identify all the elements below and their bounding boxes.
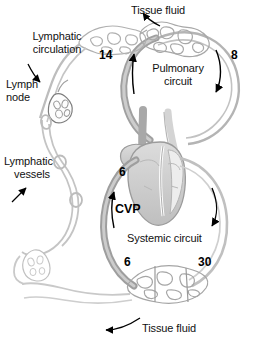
lymphatic-vessels-label-line1: Lymphatic bbox=[4, 155, 53, 167]
tissue-fluid-bottom-arrow bbox=[106, 318, 140, 330]
lymph-collector-bottom bbox=[14, 256, 24, 284]
tissue-fluid-top-label: Tissue fluid bbox=[131, 4, 185, 16]
lymphatic-circulation-label-line2: circulation bbox=[14, 43, 100, 55]
pulmonary-up-arrow bbox=[133, 54, 135, 94]
lymphatic-vessel-chain bbox=[22, 114, 82, 255]
tissue-fluid-outflow-2 bbox=[24, 297, 132, 303]
pulmonary-circuit-label-line1: Pulmonary bbox=[140, 62, 216, 74]
cvp-label: CVP bbox=[115, 203, 141, 216]
pulmonary-capillary-bed bbox=[140, 22, 209, 57]
pressure-value-pulmonary-outflow: 8 bbox=[231, 49, 238, 61]
systemic-up-arrow bbox=[112, 192, 114, 228]
tissue-fluid-bottom-label: Tissue fluid bbox=[142, 322, 196, 334]
pressure-value-systemic-arterial: 30 bbox=[198, 256, 211, 268]
lymph-node-label-line2: node bbox=[6, 91, 30, 103]
lymph-node-label-line1: Lymph bbox=[6, 78, 38, 90]
lymph-node-shape bbox=[48, 80, 72, 123]
lymphatic-circulation-label-line1: Lymphatic bbox=[14, 30, 100, 42]
tissue-fluid-outflow bbox=[22, 283, 130, 295]
lymphatic-vessels-label-line2: vessels bbox=[14, 168, 50, 180]
lower-lymph-node bbox=[23, 250, 50, 281]
pulmonary-circuit-label-line2: circuit bbox=[140, 75, 216, 87]
pressure-value-systemic-venous: 6 bbox=[124, 256, 131, 268]
systemic-circuit-label: Systemic circuit bbox=[127, 232, 202, 244]
pressure-value-pulmonary-inflow: 14 bbox=[99, 49, 112, 61]
pressure-value-right-atrium: 6 bbox=[119, 166, 126, 178]
lymphatic-vessels-arrow bbox=[12, 188, 26, 202]
figure-canvas: Tissue fluid Lymphatic circulation Lymph… bbox=[0, 0, 255, 346]
